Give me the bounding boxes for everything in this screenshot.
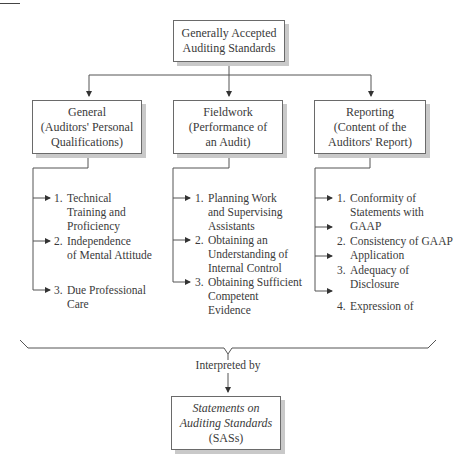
result-line2: Auditing Standards <box>172 416 280 431</box>
root-line1: Generally Accepted <box>174 26 284 41</box>
item-text: Independence of Mental Attitude <box>67 234 152 262</box>
category-title: Reporting <box>315 105 425 120</box>
item-text: Expression of <box>350 299 414 313</box>
category-subtitle: (Auditors' Personal <box>33 120 141 135</box>
item-text: Due Professional Care <box>67 283 146 311</box>
item-text: Obtaining an Understanding of Internal C… <box>208 233 288 275</box>
item-number: 2. <box>195 233 204 247</box>
category-subtitle: (Content of the <box>315 120 425 135</box>
root-line2: Auditing Standards <box>174 41 284 56</box>
category-subtitle: an Audit) <box>174 135 282 150</box>
item-number: 2. <box>54 234 63 248</box>
result-line3: (SASs) <box>172 431 280 446</box>
category-subtitle: Qualifications) <box>33 135 141 150</box>
item-text: Conformity of Statements with GAAP <box>350 191 424 233</box>
category-title: Fieldwork <box>174 105 282 120</box>
item-number: 1. <box>337 191 346 205</box>
category-reporting-box: Reporting (Content of the Auditors' Repo… <box>314 100 426 154</box>
gaas-root-box: Generally Accepted Auditing Standards <box>173 20 285 62</box>
category-general-box: General (Auditors' Personal Qualificatio… <box>32 100 142 154</box>
item-number: 1. <box>54 191 63 205</box>
interpreted-by-label: Interpreted by <box>178 359 278 371</box>
sas-result-box: Statements on Auditing Standards (SASs) <box>171 396 281 450</box>
item-number: 4. <box>337 299 346 313</box>
category-subtitle: Auditors' Report) <box>315 135 425 150</box>
item-number: 3. <box>54 283 63 297</box>
result-line1: Statements on <box>172 401 280 416</box>
category-title: General <box>33 105 141 120</box>
category-subtitle: (Performance of <box>174 120 282 135</box>
item-text: Obtaining Sufficient Competent Evidence <box>208 275 302 317</box>
item-text: Planning Work and Supervising Assistants <box>208 191 282 233</box>
item-number: 1. <box>195 191 204 205</box>
item-number: 3. <box>195 275 204 289</box>
item-text: Adequacy of Disclosure <box>350 263 409 291</box>
item-text: Technical Training and Proficiency <box>67 191 126 233</box>
item-text: Consistency of GAAP Application <box>350 234 453 262</box>
category-fieldwork-box: Fieldwork (Performance of an Audit) <box>173 100 283 154</box>
item-number: 2. <box>337 234 346 248</box>
item-number: 3. <box>337 263 346 277</box>
